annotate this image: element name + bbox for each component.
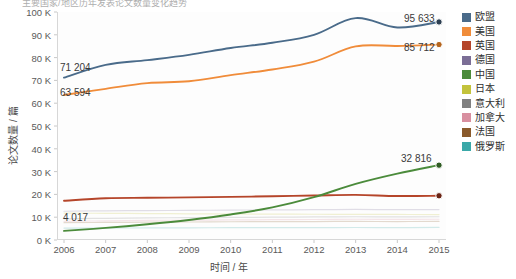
legend-swatch-icon (462, 113, 471, 122)
legend-label: 意大利 (475, 99, 505, 109)
y-tick-label: 80 K (31, 52, 51, 63)
x-tick-label: 2010 (220, 244, 241, 255)
series-5 (64, 213, 439, 214)
legend-swatch-icon (462, 13, 471, 22)
y-tick-label: 70 K (31, 75, 51, 86)
legend-label: 美国 (475, 27, 495, 37)
legend-swatch-icon (462, 56, 471, 65)
china-end-label: 32 816 (401, 153, 432, 164)
legend-swatch-icon (462, 27, 471, 36)
series-0 (64, 18, 442, 78)
x-tick-label: 2011 (262, 244, 282, 255)
eu-end-label: 95 633 (404, 13, 435, 24)
x-tick-label: 2013 (345, 244, 366, 255)
series-6 (64, 217, 439, 219)
x-axis-label: 时间 / 年 (0, 259, 516, 274)
legend-swatch-icon (462, 99, 471, 108)
legend-item-6[interactable]: 意大利 (462, 96, 516, 110)
legend-swatch-icon (462, 70, 471, 79)
chart-legend: 欧盟美国英国德国中国日本意大利加拿大法国俄罗斯 (462, 10, 516, 154)
eu-start-label: 71 204 (60, 62, 91, 73)
x-tick-label: 2006 (53, 244, 74, 255)
legend-label: 欧盟 (475, 12, 495, 22)
us-start-label: 63 594 (60, 87, 91, 98)
legend-item-8[interactable]: 法国 (462, 125, 516, 139)
china-start-label: 4 017 (63, 212, 88, 223)
legend-label: 法国 (475, 127, 495, 137)
legend-swatch-icon (462, 85, 471, 94)
legend-item-0[interactable]: 欧盟 (462, 10, 516, 24)
legend-item-3[interactable]: 德国 (462, 53, 516, 67)
y-tick-label: 20 K (31, 189, 51, 200)
y-axis-label: 论文数量 / 篇 (5, 86, 20, 186)
x-tick-label: 2012 (303, 244, 324, 255)
legend-label: 俄罗斯 (475, 142, 505, 152)
series-2 (64, 193, 442, 201)
y-tick-label: 40 K (31, 143, 51, 154)
x-tick-label: 2015 (428, 244, 449, 255)
y-tick-label: 50 K (31, 121, 51, 132)
legend-swatch-icon (462, 142, 471, 151)
legend-label: 日本 (475, 84, 495, 94)
legend-item-2[interactable]: 英国 (462, 39, 516, 53)
legend-label: 加拿大 (475, 113, 505, 123)
legend-item-5[interactable]: 日本 (462, 82, 516, 96)
legend-item-1[interactable]: 美国 (462, 24, 516, 38)
y-tick-label: 60 K (31, 98, 51, 109)
x-tick-label: 2009 (178, 244, 199, 255)
legend-item-4[interactable]: 中国 (462, 68, 516, 82)
x-tick-label: 2008 (137, 244, 158, 255)
y-tick-label: 10 K (31, 212, 51, 223)
legend-item-7[interactable]: 加拿大 (462, 111, 516, 125)
y-tick-label: 0 K (37, 235, 51, 246)
chart-canvas (0, 0, 516, 279)
series-8 (64, 221, 439, 222)
x-tick-label: 2014 (387, 244, 408, 255)
chart-root: 主要国家/地区历年发表论文数量变化趋势 100 K90 K80 K70 K60 … (0, 0, 516, 279)
legend-item-9[interactable]: 俄罗斯 (462, 140, 516, 154)
legend-label: 德国 (475, 55, 495, 65)
legend-label: 英国 (475, 41, 495, 51)
legend-swatch-icon (462, 128, 471, 137)
series-1 (64, 41, 442, 95)
legend-label: 中国 (475, 70, 495, 80)
y-tick-label: 30 K (31, 166, 51, 177)
legend-swatch-icon (462, 41, 471, 50)
y-tick-label: 100 K (26, 7, 51, 18)
x-tick-label: 2007 (95, 244, 116, 255)
y-tick-label: 90 K (31, 29, 51, 40)
us-end-label: 85 712 (404, 42, 435, 53)
